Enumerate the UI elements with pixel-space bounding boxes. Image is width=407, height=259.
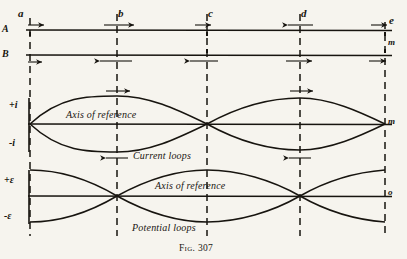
- tick-c-below-line-a: [206, 32, 208, 36]
- conductor-line-a: [26, 30, 392, 31]
- node-label-a: a: [18, 8, 24, 19]
- current-axis-of-reference-label: Axis of reference: [66, 109, 136, 120]
- potential-y-negative-label: -ε: [4, 211, 11, 221]
- node-label-b: b: [118, 8, 124, 19]
- standing-wave-figure: [0, 0, 407, 259]
- current-loops-label: Current loops: [133, 150, 191, 161]
- right-label-potential-end: o: [388, 188, 393, 197]
- tick-e-above-line-b: [384, 49, 386, 53]
- tick-a-below-line-a: [29, 32, 31, 36]
- node-label-c: c: [208, 8, 213, 19]
- tick-e-below-line-a: [384, 32, 386, 36]
- node-label-e: e: [389, 15, 394, 26]
- potential-axis-of-reference-line: [28, 196, 392, 197]
- tick-c-above-line-b: [206, 49, 208, 53]
- potential-y-positive-label: +ε: [4, 175, 14, 185]
- potential-loops-label: Potential loops: [132, 222, 196, 233]
- right-label-current-end: m: [388, 117, 395, 126]
- potential-axis-of-reference-label: Axis of reference: [155, 180, 225, 191]
- node-label-d: d: [301, 8, 307, 19]
- row-label-a: A: [2, 24, 9, 34]
- row-label-b: B: [2, 49, 9, 59]
- current-y-negative-label: -i: [9, 138, 15, 148]
- conductor-line-b: [26, 55, 392, 56]
- figure-caption: Fig. 307: [179, 243, 213, 253]
- current-y-positive-label: +i: [9, 100, 17, 110]
- right-label-between-lines: m: [388, 38, 395, 47]
- current-axis-of-reference-line: [28, 124, 392, 125]
- figure-background: [0, 0, 407, 259]
